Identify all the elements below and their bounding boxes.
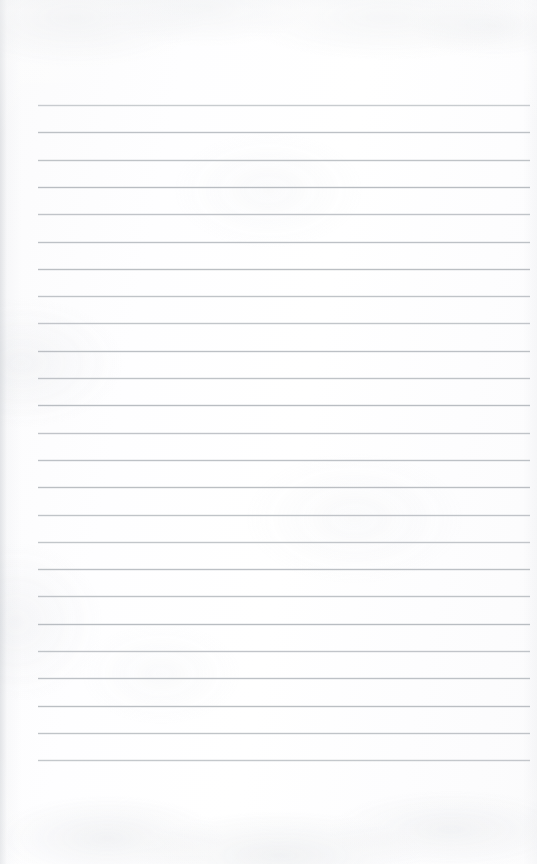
ruled-line bbox=[38, 760, 530, 761]
ruled-line bbox=[38, 269, 530, 270]
ruled-lines-group bbox=[0, 0, 537, 864]
ruled-line bbox=[38, 351, 530, 352]
ruled-line bbox=[38, 651, 530, 652]
ruled-line bbox=[38, 596, 530, 597]
ruled-line bbox=[38, 214, 530, 215]
ruled-line bbox=[38, 569, 530, 570]
ruled-line bbox=[38, 378, 530, 379]
ruled-line bbox=[38, 624, 530, 625]
ruled-line bbox=[38, 187, 530, 188]
ruled-line bbox=[38, 678, 530, 679]
scanned-notepad-page bbox=[0, 0, 537, 864]
ruled-line bbox=[38, 515, 530, 516]
ruled-line bbox=[38, 242, 530, 243]
ruled-line bbox=[38, 323, 530, 324]
ruled-line bbox=[38, 105, 530, 106]
ruled-line bbox=[38, 433, 530, 434]
ruled-line bbox=[38, 542, 530, 543]
ruled-line bbox=[38, 733, 530, 734]
ruled-line bbox=[38, 132, 530, 133]
ruled-line bbox=[38, 296, 530, 297]
ruled-line bbox=[38, 487, 530, 488]
ruled-line bbox=[38, 405, 530, 406]
ruled-line bbox=[38, 160, 530, 161]
ruled-line bbox=[38, 460, 530, 461]
ruled-line bbox=[38, 706, 530, 707]
